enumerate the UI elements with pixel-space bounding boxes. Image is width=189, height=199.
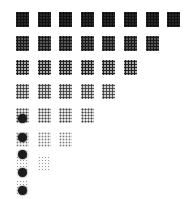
pattern-swatch — [59, 12, 72, 27]
pattern-swatch — [59, 84, 72, 99]
dark-blob-marker — [18, 114, 27, 123]
pattern-swatch — [81, 12, 94, 27]
pattern-swatch — [102, 84, 115, 99]
pattern-swatch — [38, 12, 51, 27]
pattern-swatch — [38, 84, 51, 99]
pattern-swatch — [81, 108, 94, 123]
pattern-swatch — [16, 36, 29, 51]
pattern-swatch — [16, 84, 29, 99]
pattern-swatch — [38, 156, 51, 171]
pattern-swatch — [102, 60, 115, 75]
dark-blob-marker — [18, 150, 27, 159]
pattern-swatch — [124, 12, 137, 27]
pattern-swatch — [59, 60, 72, 75]
pattern-swatch — [38, 60, 51, 75]
pattern-swatch — [38, 108, 51, 123]
pattern-swatch — [38, 132, 51, 147]
pattern-swatch — [102, 36, 115, 51]
pattern-swatch — [81, 60, 94, 75]
pattern-swatch — [124, 36, 137, 51]
pattern-swatch — [102, 12, 115, 27]
pattern-swatch — [16, 12, 29, 27]
pattern-swatch — [59, 36, 72, 51]
pattern-swatch — [146, 12, 159, 27]
pattern-swatch — [146, 36, 159, 51]
pattern-swatch — [81, 36, 94, 51]
pattern-swatch — [124, 60, 137, 75]
dark-blob-marker — [18, 186, 27, 195]
dark-blob-marker — [18, 168, 27, 177]
pattern-swatch — [81, 84, 94, 99]
pattern-swatch — [59, 108, 72, 123]
pattern-swatch — [167, 12, 180, 27]
dark-blob-marker — [18, 133, 27, 142]
pattern-swatch — [16, 60, 29, 75]
pattern-swatch — [59, 132, 72, 147]
pattern-swatch — [38, 36, 51, 51]
